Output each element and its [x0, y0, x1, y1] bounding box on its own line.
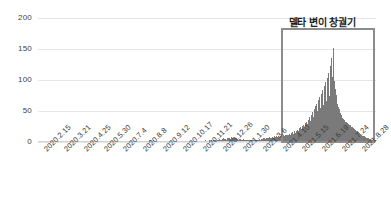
- delta-outbreak-label: 델타 변이 창궐기: [289, 14, 356, 29]
- y-axis-tick-label: 150: [18, 45, 32, 53]
- y-axis-tick-label: 200: [18, 14, 32, 22]
- x-axis: 2020.2.152020.3.212020.4.252020.5.302020…: [0, 143, 383, 198]
- y-axis-tick-label: 50: [23, 107, 32, 115]
- y-axis-tick-label: 100: [18, 76, 32, 84]
